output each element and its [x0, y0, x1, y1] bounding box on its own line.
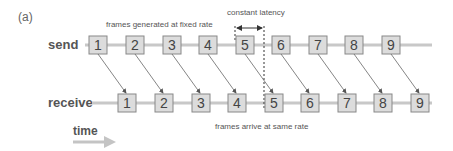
receive-frame-8-label: 8 [379, 95, 387, 111]
transmission-arrow-8 [354, 54, 382, 93]
receive-frame-9-label: 9 [416, 95, 424, 111]
transmission-arrow-2 [135, 54, 163, 93]
transmission-arrow-9 [391, 54, 419, 93]
transmission-arrow-7 [318, 54, 346, 93]
receive-frame-1-label: 1 [123, 95, 131, 111]
receive-frame-6-label: 6 [306, 95, 314, 111]
transmission-arrow-5 [245, 54, 273, 93]
transmission-arrows [98, 54, 419, 93]
transmission-arrow-6 [281, 54, 309, 93]
time-arrow-head [104, 136, 116, 148]
send-frame-9-label: 9 [387, 37, 395, 53]
send-frames: 123456789 [89, 36, 400, 54]
send-frame-7-label: 7 [314, 37, 322, 53]
receive-frames: 123456789 [118, 94, 429, 112]
receive-frame-5-label: 5 [270, 95, 278, 111]
transmission-arrow-3 [172, 54, 200, 93]
send-frame-3-label: 3 [168, 37, 176, 53]
send-frame-2-label: 2 [131, 37, 139, 53]
receive-frame-2-label: 2 [160, 95, 168, 111]
send-frame-8-label: 8 [350, 37, 358, 53]
receive-frame-3-label: 3 [197, 95, 205, 111]
send-frame-6-label: 6 [277, 37, 285, 53]
transmission-arrow-1 [98, 54, 126, 93]
receive-frame-4-label: 4 [233, 95, 241, 111]
receive-frame-7-label: 7 [343, 95, 351, 111]
timing-diagram: 123456789 123456789 [0, 0, 453, 151]
send-frame-1-label: 1 [94, 37, 102, 53]
transmission-arrow-4 [208, 54, 236, 93]
send-frame-5-label: 5 [241, 37, 249, 53]
send-frame-4-label: 4 [204, 37, 212, 53]
